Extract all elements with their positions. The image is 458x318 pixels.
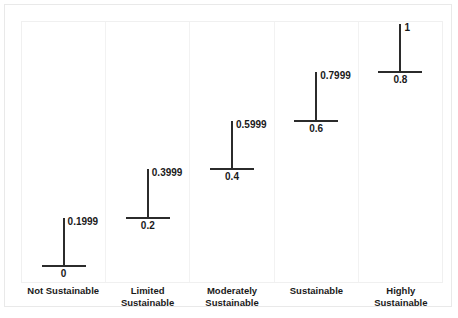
- category-axis: Not Sustainable Limited Sustainable Mode…: [21, 285, 443, 311]
- lower-bound-label: 0.2: [141, 220, 155, 231]
- lower-bound-tick: [42, 265, 86, 267]
- range-line: [315, 72, 317, 120]
- lower-bound-label: 0: [61, 268, 67, 279]
- upper-bound-label: 0.3999: [152, 167, 183, 178]
- category-label-moderately-sustainable: Moderately Sustainable: [190, 285, 274, 311]
- category-label-line: Sustainable: [359, 297, 443, 309]
- panel-limited-sustainable: 0.3999 0.2: [106, 22, 190, 282]
- category-label-line: Moderately: [190, 285, 274, 297]
- panel-moderately-sustainable: 0.5999 0.4: [190, 22, 274, 282]
- category-label-line: Limited: [105, 285, 189, 297]
- lower-bound-label: 0.6: [309, 123, 323, 134]
- category-label-line: Sustainable: [105, 297, 189, 309]
- range-line: [399, 24, 401, 72]
- panel-highly-sustainable: 1 0.8: [359, 22, 442, 282]
- lower-bound-tick: [294, 120, 338, 122]
- lower-bound-tick: [210, 168, 254, 170]
- figure-frame: 0.1999 0 0.3999 0.2 0.5999 0.4 0.7999 0.…: [4, 4, 452, 307]
- upper-bound-label: 0.7999: [320, 70, 351, 81]
- panel-sustainable: 0.7999 0.6: [275, 22, 359, 282]
- lower-bound-tick: [126, 217, 170, 219]
- category-label-highly-sustainable: Highly Sustainable: [359, 285, 443, 311]
- panel-not-sustainable: 0.1999 0: [22, 22, 106, 282]
- category-label-limited-sustainable: Limited Sustainable: [105, 285, 189, 311]
- lower-bound-tick: [378, 71, 422, 73]
- range-line: [63, 218, 65, 266]
- upper-bound-label: 1: [404, 22, 410, 33]
- lower-bound-label: 0.8: [393, 74, 407, 85]
- range-line: [231, 121, 233, 169]
- category-label-sustainable: Sustainable: [274, 285, 358, 311]
- lower-bound-label: 0.4: [225, 171, 239, 182]
- category-label-not-sustainable: Not Sustainable: [21, 285, 105, 311]
- category-label-line: Sustainable: [274, 285, 358, 297]
- upper-bound-label: 0.1999: [68, 216, 99, 227]
- category-label-line: Sustainable: [190, 297, 274, 309]
- upper-bound-label: 0.5999: [236, 119, 267, 130]
- category-label-line: Highly: [359, 285, 443, 297]
- plot-area: 0.1999 0 0.3999 0.2 0.5999 0.4 0.7999 0.…: [21, 21, 443, 283]
- range-line: [147, 169, 149, 217]
- category-label-line: Not Sustainable: [21, 285, 105, 297]
